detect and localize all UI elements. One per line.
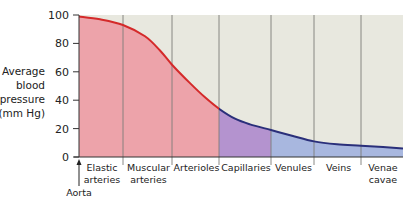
x-category-label: Venules — [275, 162, 312, 173]
x-category-label: Venae — [368, 162, 397, 173]
y-label-line: Average — [2, 65, 45, 77]
x-category-label: Veins — [326, 162, 351, 173]
y-tick-label: 60 — [55, 66, 69, 79]
x-category-label: arteries — [130, 174, 167, 185]
y-tick-label: 80 — [55, 37, 69, 50]
y-tick-label: 0 — [62, 151, 69, 164]
y-label-line: pressure — [0, 93, 45, 105]
x-category-labels: ElasticarteriesMusculararteriesArteriole… — [84, 162, 398, 185]
y-tick-label: 100 — [48, 9, 69, 22]
y-label-line: (mm Hg) — [0, 107, 45, 119]
blood-pressure-chart: 020406080100 Averagebloodpressure(mm Hg)… — [0, 0, 403, 206]
x-category-label: arteries — [84, 174, 121, 185]
arrowhead-icon — [77, 159, 82, 165]
x-category-label: cavae — [369, 174, 397, 185]
x-category-label: Arterioles — [174, 162, 220, 173]
y-tick-label: 20 — [55, 123, 69, 136]
aorta-label: Aorta — [66, 187, 92, 198]
y-label-line: blood — [16, 79, 45, 91]
x-category-label: Muscular — [127, 162, 170, 173]
y-tick-label: 40 — [55, 94, 69, 107]
y-axis-label: Averagebloodpressure(mm Hg) — [0, 65, 45, 119]
x-category-label: Capillaries — [221, 162, 271, 173]
x-category-label: Elastic — [86, 162, 117, 173]
